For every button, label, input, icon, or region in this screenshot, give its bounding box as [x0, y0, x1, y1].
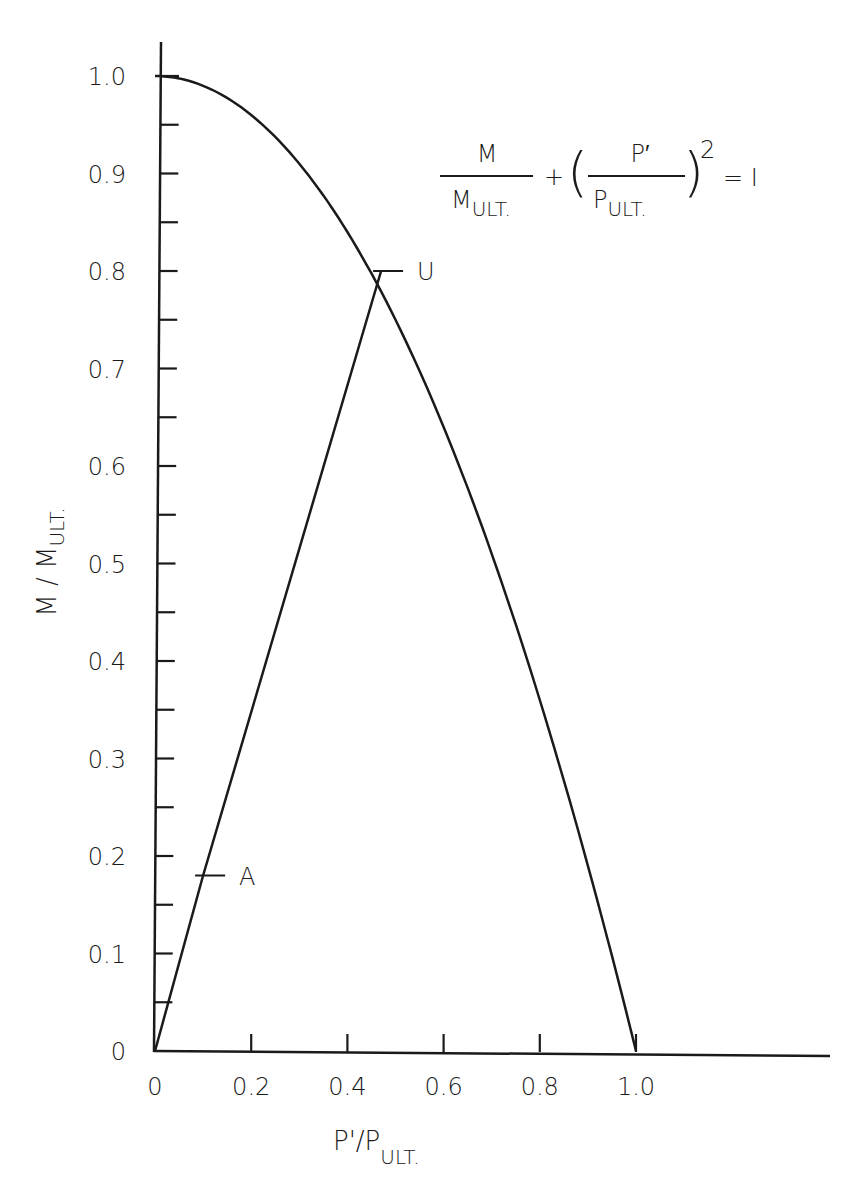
x-tick-label: 0	[147, 1073, 162, 1101]
y-tick-label: 0.6	[88, 453, 126, 481]
y-tick-label: 0	[111, 1038, 126, 1066]
y-tick-label: 0.4	[88, 648, 126, 676]
point-markers: UA	[195, 258, 435, 891]
x-tick-label: 1.0	[617, 1073, 655, 1101]
eq-equals-one: = I	[723, 164, 758, 192]
eq-exponent: 2	[700, 136, 715, 164]
y-tick-label: 0.1	[88, 941, 126, 969]
y-tick-label: 0.3	[88, 746, 126, 774]
point-label-u: U	[417, 258, 435, 286]
y-tick-label: 0.2	[88, 843, 126, 871]
point-label-a: A	[239, 863, 255, 891]
x-tick-label: 0.6	[425, 1073, 463, 1101]
eq-term2-denominator: PULT.	[593, 186, 647, 221]
eq-term2-numerator: P′	[631, 140, 650, 168]
x-axis	[154, 1051, 830, 1056]
x-tick-label: 0.4	[328, 1073, 366, 1101]
loading-path-line	[155, 271, 381, 1051]
equation-annotation: M MULT. + ( P′ PULT. ) 2 = I	[440, 136, 758, 221]
y-tick-label: 0.5	[88, 551, 126, 579]
y-tick-labels: 00.10.20.30.40.50.60.70.80.91.0	[88, 63, 126, 1066]
eq-term1-numerator: M	[477, 140, 498, 168]
y-tick-label: 0.8	[88, 258, 126, 286]
x-axis-label: P'/PULT.	[333, 1126, 420, 1169]
interaction-diagram: 00.10.20.30.40.50.60.70.80.91.0 00.20.40…	[0, 0, 860, 1190]
eq-left-paren: (	[567, 141, 588, 204]
eq-term1-denominator: MULT.	[451, 186, 511, 221]
eq-plus: +	[544, 163, 564, 191]
x-ticks	[251, 1034, 636, 1052]
x-tick-labels: 00.20.40.60.81.0	[147, 1073, 655, 1101]
y-tick-label: 0.7	[88, 356, 126, 384]
x-tick-label: 0.2	[232, 1073, 270, 1101]
x-tick-label: 0.8	[521, 1073, 559, 1101]
interaction-curve	[155, 76, 636, 1051]
y-tick-label: 1.0	[88, 63, 126, 91]
y-axis	[154, 42, 161, 1052]
y-axis-label: M / MULT.	[32, 507, 69, 616]
y-tick-label: 0.9	[88, 161, 126, 189]
